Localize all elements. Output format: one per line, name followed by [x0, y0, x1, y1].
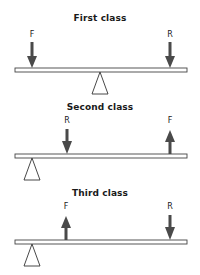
- up-arrow-icon: [61, 216, 71, 240]
- down-arrow-icon: [62, 129, 72, 154]
- up-arrow-icon: [165, 130, 175, 154]
- third-class-lever: [15, 215, 187, 266]
- down-arrow-icon: [165, 215, 175, 240]
- beam: [15, 68, 187, 72]
- lever-diagram: [0, 0, 200, 275]
- fulcrum-triangle-icon: [92, 72, 108, 94]
- fulcrum-triangle-icon: [24, 158, 40, 180]
- second-class-lever: [15, 129, 187, 180]
- down-arrow-icon: [27, 42, 37, 68]
- beam: [15, 154, 187, 158]
- beam: [15, 240, 187, 244]
- down-arrow-icon: [165, 42, 175, 68]
- first-class-lever: [15, 42, 187, 94]
- fulcrum-triangle-icon: [24, 244, 40, 266]
